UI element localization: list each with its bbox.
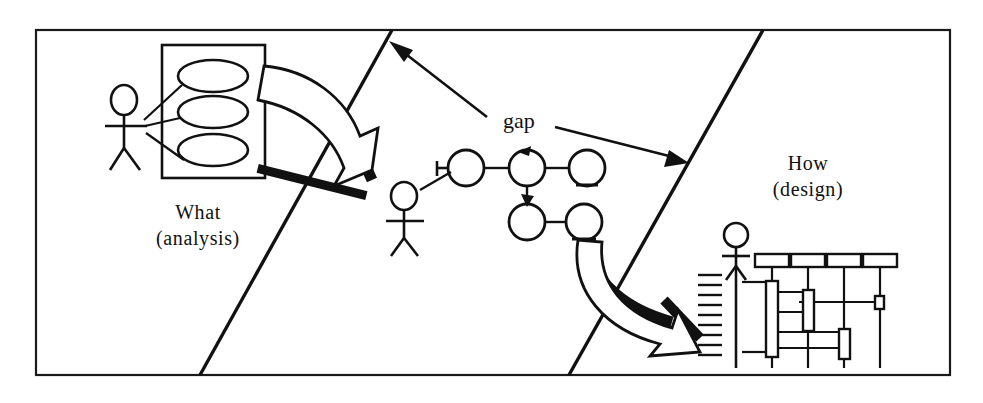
sequence-activation-bar-1 — [766, 281, 778, 357]
diagram-root: gap What (analysis) — [0, 0, 983, 403]
analysis-caption-line1: What — [175, 201, 221, 223]
analysis-design-gap-figure: gap What (analysis) — [0, 0, 983, 403]
sequence-activation-bar-4 — [875, 296, 884, 309]
sequence-activation-bar-2 — [803, 290, 814, 331]
page-background — [0, 0, 983, 403]
analysis-caption-line2: (analysis) — [156, 227, 240, 250]
sequence-activation-bar-3 — [839, 329, 850, 359]
gap-label: gap — [503, 108, 535, 133]
design-caption-line2: (design) — [773, 178, 843, 201]
design-caption-line1: How — [788, 152, 829, 174]
